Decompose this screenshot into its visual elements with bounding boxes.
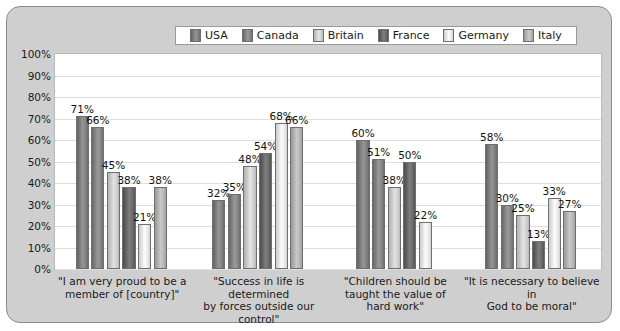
legend-item-italy[interactable]: Italy: [523, 29, 562, 42]
bar-value-label: 38%: [149, 174, 172, 186]
bar-value-label: 51%: [367, 146, 390, 158]
legend-label: USA: [205, 29, 228, 42]
chart-frame: USACanadaBritainFranceGermanyItaly 100%9…: [6, 6, 612, 323]
bar-value-label: 25%: [511, 202, 534, 214]
legend-item-britain[interactable]: Britain: [313, 29, 364, 42]
legend-label: France: [393, 29, 430, 42]
y-axis-tick-label: 70%: [9, 113, 51, 125]
y-axis-tick-label: 50%: [9, 156, 51, 168]
bar-canada-group1[interactable]: [91, 127, 104, 269]
bar-britain-group3[interactable]: [388, 187, 401, 269]
x-axis-label-line: member of [country]": [54, 288, 191, 301]
legend-swatch-britain: [313, 29, 324, 42]
bar-value-label: 33%: [542, 185, 565, 197]
x-axis-label-line: hard work": [327, 300, 464, 313]
bar-usa-group2[interactable]: [212, 200, 225, 269]
bar-value-label: 50%: [398, 149, 421, 161]
legend-swatch-germany: [443, 29, 454, 42]
legend-swatch-usa: [190, 29, 201, 42]
y-axis-tick-label: 90%: [9, 70, 51, 82]
bar-britain-group4[interactable]: [516, 215, 529, 269]
legend-swatch-france: [378, 29, 389, 42]
y-axis-tick-label: 60%: [9, 134, 51, 146]
x-axis-category-label-4: "It is necessary to believe inGod to be …: [464, 275, 601, 313]
bar-britain-group1[interactable]: [107, 172, 120, 269]
bar-value-label: 45%: [102, 159, 125, 171]
bar-canada-group2[interactable]: [228, 194, 241, 269]
legend-label: Britain: [328, 29, 364, 42]
y-axis-tick-label: 0%: [9, 263, 51, 275]
y-axis: 100%90%80%70%60%50%40%30%20%10%0%: [7, 53, 51, 270]
bar-series-container: 71%66%45%38%21%38%32%35%48%54%68%66%60%5…: [55, 54, 601, 269]
legend-item-usa[interactable]: USA: [190, 29, 228, 42]
x-axis-label-line: "I am very proud to be a: [54, 275, 191, 288]
bar-usa-group4[interactable]: [485, 144, 498, 269]
y-axis-tick-label: 10%: [9, 242, 51, 254]
bar-germany-group2[interactable]: [275, 123, 288, 269]
legend-item-germany[interactable]: Germany: [443, 29, 509, 42]
chart-legend: USACanadaBritainFranceGermanyItaly: [175, 26, 577, 45]
legend-swatch-italy: [523, 29, 534, 42]
legend-item-canada[interactable]: Canada: [242, 29, 299, 42]
bar-britain-group2[interactable]: [243, 166, 256, 269]
bar-italy-group4[interactable]: [563, 211, 576, 269]
bar-value-label: 66%: [285, 114, 308, 126]
x-axis-label-line: "Children should be: [327, 275, 464, 288]
y-axis-tick-label: 100%: [9, 48, 51, 60]
bar-usa-group3[interactable]: [356, 140, 369, 269]
bar-value-label: 22%: [414, 209, 437, 221]
bar-value-label: 38%: [117, 174, 140, 186]
x-axis-category-label-3: "Children should betaught the value ofha…: [327, 275, 464, 313]
y-axis-tick-label: 40%: [9, 177, 51, 189]
legend-swatch-canada: [242, 29, 253, 42]
bar-italy-group2[interactable]: [290, 127, 303, 269]
x-axis-label-line: "Success in life is determined: [191, 275, 328, 300]
bar-value-label: 58%: [480, 131, 503, 143]
bar-france-group4[interactable]: [532, 241, 545, 269]
legend-label: Italy: [538, 29, 562, 42]
bar-italy-group1[interactable]: [154, 187, 167, 269]
plot-area: 71%66%45%38%21%38%32%35%48%54%68%66%60%5…: [54, 53, 602, 270]
bar-france-group1[interactable]: [122, 187, 135, 269]
gridline: [55, 269, 601, 270]
y-axis-tick-label: 20%: [9, 220, 51, 232]
y-axis-tick-label: 30%: [9, 199, 51, 211]
x-axis-label-line: taught the value of: [327, 288, 464, 301]
y-axis-tick-label: 80%: [9, 91, 51, 103]
bar-germany-group1[interactable]: [138, 224, 151, 269]
bar-france-group2[interactable]: [259, 153, 272, 269]
bar-germany-group3[interactable]: [419, 222, 432, 269]
bar-value-label: 60%: [351, 127, 374, 139]
x-axis-label-line: God to be moral": [464, 300, 601, 313]
legend-label: Canada: [257, 29, 299, 42]
x-axis-category-label-1: "I am very proud to be amember of [count…: [54, 275, 191, 300]
x-axis-labels: "I am very proud to be amember of [count…: [54, 275, 602, 325]
bar-value-label: 27%: [558, 198, 581, 210]
legend-label: Germany: [458, 29, 509, 42]
x-axis-category-label-2: "Success in life is determinedby forces …: [191, 275, 328, 325]
legend-item-france[interactable]: France: [378, 29, 430, 42]
bar-usa-group1[interactable]: [76, 116, 89, 269]
bar-value-label: 66%: [86, 114, 109, 126]
x-axis-label-line: by forces outside our control": [191, 300, 328, 325]
x-axis-label-line: "It is necessary to believe in: [464, 275, 601, 300]
